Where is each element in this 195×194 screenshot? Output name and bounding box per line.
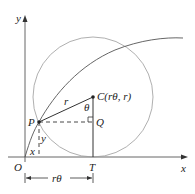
point-p-label: P <box>27 116 35 128</box>
point-c-label: C(rθ, r) <box>97 90 131 103</box>
x-offset-label: x <box>29 145 35 157</box>
y-axis-label: y <box>15 12 21 24</box>
radius-label: r <box>64 95 69 107</box>
arc-length-label: rθ <box>52 172 62 184</box>
angle-label: θ <box>84 101 90 113</box>
y-offset-label: y <box>40 132 46 144</box>
x-axis-arrow-icon <box>181 155 188 160</box>
point-p <box>37 120 41 124</box>
dimension-arrow-left-icon <box>26 176 31 180</box>
y-axis-arrow-icon <box>23 15 28 22</box>
point-t-label: T <box>89 161 96 173</box>
right-angle-marker <box>88 117 93 122</box>
point-c <box>91 95 95 99</box>
origin-label: O <box>14 161 22 173</box>
x-axis-label: x <box>180 162 186 174</box>
point-q-label: Q <box>96 116 104 128</box>
cycloid-diagram: y x O P C(rθ, r) Q T r θ x y rθ <box>0 0 195 194</box>
dimension-arrow-right-icon <box>87 176 92 180</box>
